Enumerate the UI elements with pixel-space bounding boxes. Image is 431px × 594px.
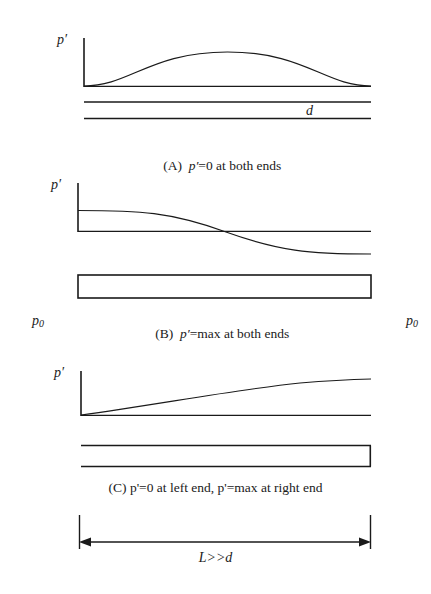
panel-b-caption-symbol: p′ (180, 326, 190, 341)
panel-b-duct-closed-box (78, 275, 371, 298)
acoustic-duct-figure: p′ d (A) p′=0 at both ends p′ p0 p0 (B) … (0, 0, 431, 594)
panel-a-caption: (A) p′=0 at both ends (0, 145, 431, 186)
duct-length-dimension-label: L>>d (0, 551, 431, 565)
panel-b-pressure-curve (78, 211, 371, 255)
panel-a-duct-diameter-label: d (306, 104, 313, 118)
dimension-right-arrowhead-icon (359, 537, 371, 546)
panel-c-pressure-curve (81, 379, 371, 415)
panel-a-caption-rest: =0 at both ends (198, 158, 281, 173)
panel-b-axis-label: p′ (51, 178, 61, 192)
panel-b-caption: (B) p′=max at both ends (0, 313, 431, 354)
panel-a-axis-label: p′ (57, 33, 67, 47)
panel-b-caption-rest: =max at both ends (190, 326, 289, 341)
panel-c-axis-label: p′ (54, 366, 64, 380)
panel-b-graphics (78, 183, 371, 298)
panel-c-graphics (81, 371, 371, 467)
panel-b-caption-prefix: (B) (155, 326, 173, 341)
panel-a-caption-prefix: (A) (163, 158, 182, 173)
panel-a-caption-symbol: p′ (189, 158, 199, 173)
length-dimension-graphics (79, 515, 371, 549)
panel-a-graphics (84, 38, 371, 119)
dimension-left-arrowhead-icon (79, 537, 91, 546)
panel-c-caption: (C) p'=0 at left end, p'=max at right en… (0, 481, 431, 495)
figure-vector-layer (0, 0, 431, 594)
panel-a-pressure-curve (84, 52, 371, 86)
